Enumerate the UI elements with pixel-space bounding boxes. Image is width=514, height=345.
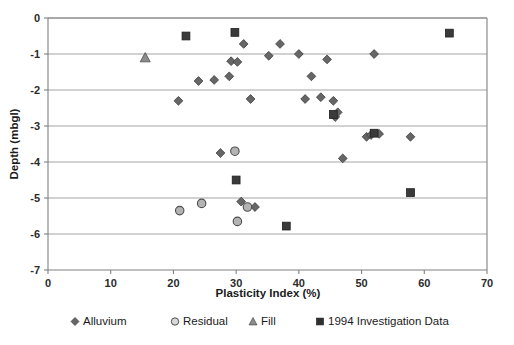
- x-axis-title: Plasticity Index (%): [216, 287, 321, 299]
- data-point-diamond: [307, 72, 316, 81]
- legend-item-fill[interactable]: Fill: [249, 315, 276, 327]
- y-tick-label: -3: [30, 120, 40, 132]
- data-point-square: [407, 189, 415, 197]
- series-residual: [175, 147, 251, 226]
- data-point-diamond: [370, 50, 379, 59]
- data-point-diamond: [264, 51, 273, 60]
- grid-lines: [48, 18, 487, 234]
- data-point-square: [329, 111, 337, 119]
- y-tick-label: -4: [30, 156, 41, 168]
- series-alluvium: [174, 40, 415, 212]
- y-tick-label: -5: [30, 192, 40, 204]
- y-tick-label: -2: [30, 84, 40, 96]
- chart-canvas: 0-1-2-3-4-5-6-7 010203040506070 Plastici…: [0, 0, 514, 345]
- data-point-diamond: [329, 96, 338, 105]
- y-tick-label: 0: [34, 12, 40, 24]
- data-point-diamond: [233, 58, 242, 67]
- legend-label: Alluvium: [83, 315, 126, 327]
- x-tick-label: 0: [45, 277, 51, 289]
- data-point-square: [182, 32, 190, 40]
- legend-label: 1994 Investigation Data: [328, 315, 449, 327]
- data-point-diamond: [276, 40, 285, 49]
- data-point-diamond: [239, 40, 248, 49]
- data-point-diamond: [338, 154, 347, 163]
- y-axis-title: Depth (mbgl): [8, 108, 20, 179]
- data-point-diamond: [225, 72, 234, 81]
- data-point-diamond: [323, 55, 332, 64]
- y-axis-ticks: 0-1-2-3-4-5-6-7: [30, 12, 48, 276]
- data-point-diamond: [174, 96, 183, 105]
- legend-item-1994-investigation-data[interactable]: 1994 Investigation Data: [317, 315, 450, 327]
- data-point-square: [282, 222, 290, 230]
- legend-item-residual[interactable]: Residual: [171, 315, 227, 327]
- legend-marker-diamond: [71, 318, 79, 326]
- data-point-circle: [231, 147, 239, 155]
- x-tick-label: 70: [481, 277, 493, 289]
- data-point-diamond: [301, 95, 310, 104]
- data-point-square: [445, 29, 453, 37]
- data-point-diamond: [194, 77, 203, 86]
- data-point-circle: [175, 206, 183, 214]
- data-points: [140, 28, 453, 229]
- y-tick-label: -1: [30, 48, 40, 60]
- x-tick-label: 10: [105, 277, 117, 289]
- chart-legend: AlluviumResidualFill1994 Investigation D…: [71, 315, 449, 327]
- legend-label: Residual: [183, 315, 228, 327]
- data-point-diamond: [216, 149, 225, 158]
- data-point-circle: [197, 199, 205, 207]
- x-tick-label: 60: [418, 277, 430, 289]
- data-point-diamond: [316, 93, 325, 102]
- data-point-circle: [243, 203, 251, 211]
- legend-marker-square: [317, 318, 324, 325]
- data-point-square: [231, 28, 239, 36]
- legend-label: Fill: [261, 315, 276, 327]
- y-tick-label: -6: [30, 228, 40, 240]
- data-point-diamond: [210, 76, 219, 85]
- data-point-diamond: [246, 95, 255, 104]
- legend-item-alluvium[interactable]: Alluvium: [71, 315, 126, 327]
- data-point-square: [232, 176, 240, 184]
- legend-marker-circle: [171, 318, 178, 325]
- x-tick-label: 20: [167, 277, 179, 289]
- data-point-circle: [233, 217, 241, 225]
- data-point-diamond: [294, 50, 303, 59]
- y-tick-label: -7: [30, 264, 40, 276]
- x-tick-label: 50: [355, 277, 367, 289]
- scatter-chart: 0-1-2-3-4-5-6-7 010203040506070 Plastici…: [0, 0, 514, 345]
- data-point-square: [370, 129, 378, 137]
- legend-marker-triangle: [249, 318, 257, 325]
- series-1994-investigation-data: [182, 28, 453, 229]
- data-point-diamond: [406, 132, 415, 141]
